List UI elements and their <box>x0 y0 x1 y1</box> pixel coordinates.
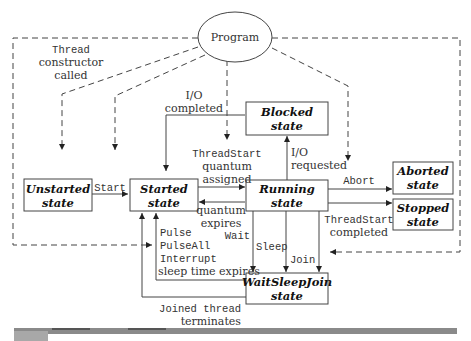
label-io-requested: I/O <box>291 146 308 159</box>
svg-text:state: state <box>407 178 439 192</box>
svg-text:Unstarted: Unstarted <box>26 182 90 196</box>
svg-text:called: called <box>54 69 87 82</box>
state-stopped: Stopped state <box>393 199 453 230</box>
label-io-completed: I/O <box>185 89 202 102</box>
label-interrupt: Interrupt <box>160 253 217 265</box>
label-joined-thread: Joined thread <box>159 303 241 315</box>
label-sleep: Sleep <box>256 241 288 253</box>
label-threadstart-completed: ThreadStart <box>324 214 393 226</box>
state-started: Started state <box>130 179 198 211</box>
state-running: Running state <box>246 180 328 211</box>
state-aborted: Aborted state <box>393 162 453 194</box>
svg-text:terminates: terminates <box>181 315 242 328</box>
svg-text:state: state <box>271 119 303 133</box>
svg-text:Started: Started <box>140 182 188 196</box>
svg-text:requested: requested <box>291 159 347 172</box>
svg-text:state: state <box>407 215 439 229</box>
label-join: Join <box>290 254 315 266</box>
svg-text:expires: expires <box>201 217 242 230</box>
svg-text:sleep time expires: sleep time expires <box>158 265 260 278</box>
footer-bar <box>14 328 457 341</box>
state-unstarted: Unstarted state <box>24 179 92 211</box>
svg-text:state: state <box>271 289 303 303</box>
label-abort: Abort <box>343 175 375 187</box>
svg-text:Blocked: Blocked <box>260 105 313 119</box>
svg-text:state: state <box>271 196 303 210</box>
svg-text:completed: completed <box>330 226 388 239</box>
svg-text:state: state <box>148 196 180 210</box>
label-start: Start <box>94 182 126 194</box>
program-node: Program <box>198 12 272 62</box>
label-pulseall: PulseAll <box>160 240 210 252</box>
svg-text:constructor: constructor <box>39 56 104 69</box>
program-label: Program <box>211 31 260 44</box>
label-wait: Wait <box>225 230 250 242</box>
svg-text:Stopped: Stopped <box>397 201 450 215</box>
label-quantum-expires: quantum <box>196 204 246 217</box>
label-threadstart-assigned: ThreadStart <box>192 148 261 160</box>
svg-text:completed: completed <box>165 102 223 115</box>
svg-text:quantum: quantum <box>202 160 252 173</box>
svg-text:state: state <box>42 196 74 210</box>
svg-text:assigned: assigned <box>202 173 251 186</box>
label-pulse: Pulse <box>160 227 192 239</box>
svg-text:Aborted: Aborted <box>396 164 448 178</box>
label-thread-constructor: Thread <box>52 44 90 56</box>
thread-state-diagram: Program Unstarted state Started state <box>0 0 471 341</box>
state-blocked: Blocked state <box>246 102 328 135</box>
svg-text:Running: Running <box>258 182 314 196</box>
